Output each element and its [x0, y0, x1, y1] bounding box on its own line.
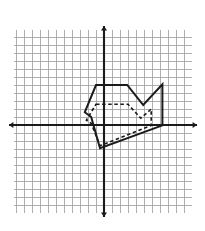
coordinate-plane	[0, 0, 205, 231]
canvas-background	[0, 0, 205, 231]
dilation-figure: Dilation	[0, 0, 205, 231]
